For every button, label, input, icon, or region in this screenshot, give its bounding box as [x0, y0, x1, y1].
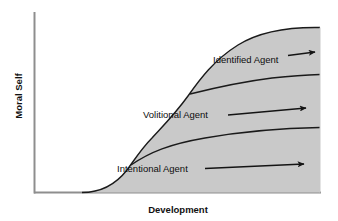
band-label-intentional-agent: Intentional Agent	[117, 163, 188, 174]
band-label-volitional-agent: Volitional Agent	[143, 109, 208, 120]
y-axis-title: Moral Self	[13, 72, 24, 118]
moral-self-development-diagram: Intentional Agent Volitional Agent Ident…	[0, 0, 338, 221]
band-label-identified-agent: Identified Agent	[213, 54, 279, 65]
diagram-canvas: Intentional Agent Volitional Agent Ident…	[0, 0, 338, 221]
x-axis-title: Development	[148, 204, 208, 215]
